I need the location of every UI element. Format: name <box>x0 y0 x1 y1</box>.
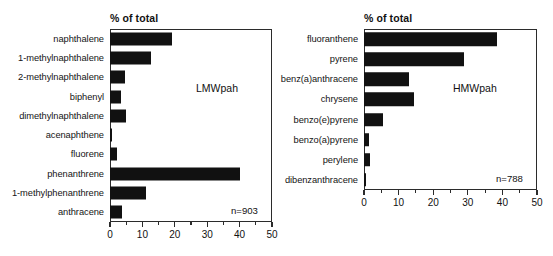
x-tick-label: 20 <box>428 197 439 208</box>
bar <box>110 51 151 64</box>
x-tick-minor <box>485 190 486 193</box>
category-label: phenanthrene <box>47 169 104 179</box>
x-tick-minor <box>126 222 127 225</box>
bar <box>110 187 146 200</box>
bar <box>110 167 240 180</box>
bar <box>364 32 497 46</box>
bar <box>110 32 172 45</box>
x-tick-label: 10 <box>393 197 404 208</box>
x-tick-label: 50 <box>266 229 277 240</box>
panel-hmwpah: % of total fluoranthenepyrenebenz(a)anth… <box>277 0 553 256</box>
bar <box>364 52 464 66</box>
x-tick-minor <box>415 190 416 193</box>
category-label: biphenyl <box>70 92 104 102</box>
x-tick-label: 30 <box>202 229 213 240</box>
x-tick-major <box>109 222 110 227</box>
x-tick-label: 10 <box>137 229 148 240</box>
x-tick-label: 30 <box>462 197 473 208</box>
category-label: benzo(a)pyrene <box>294 135 358 145</box>
bar <box>110 148 117 161</box>
x-tick-label: 40 <box>234 229 245 240</box>
x-tick-major <box>142 222 143 227</box>
bars-layer <box>110 29 272 222</box>
x-tick-major <box>363 190 364 195</box>
bar <box>364 133 369 147</box>
x-tick-label: 0 <box>361 197 367 208</box>
category-label: naphthalene <box>53 34 104 44</box>
pah-composition-figure: % of total naphthalene1-methylnaphthalen… <box>0 0 553 256</box>
x-tick-minor <box>381 190 382 193</box>
x-tick-major <box>536 190 537 195</box>
category-label: benzo(e)pyrene <box>294 115 358 125</box>
category-label: anthracene <box>58 207 104 217</box>
bar <box>110 129 112 142</box>
category-label: chrysene <box>321 94 358 104</box>
panel-lmwpah: % of total naphthalene1-methylnaphthalen… <box>0 0 277 256</box>
bar <box>364 113 383 127</box>
category-label: pyrene <box>330 54 358 64</box>
bar <box>110 206 122 219</box>
series-label-lmwpah: LMWpah <box>196 82 238 94</box>
category-label: fluorene <box>71 149 104 159</box>
bar <box>364 93 414 107</box>
x-tick-major <box>467 190 468 195</box>
bar <box>110 90 121 103</box>
category-label: benz(a)anthracene <box>281 74 358 84</box>
x-tick-major <box>207 222 208 227</box>
x-tick-minor <box>158 222 159 225</box>
axis-title-percent-of-total: % of total <box>364 12 412 24</box>
category-label: 2-methylnaphthalene <box>18 72 104 82</box>
bar <box>110 71 125 84</box>
bar <box>364 173 366 187</box>
x-tick-label: 50 <box>531 197 542 208</box>
x-tick-label: 20 <box>169 229 180 240</box>
axis-title-percent-of-total: % of total <box>110 12 158 24</box>
series-label-hmwpah: HMWpah <box>453 82 497 94</box>
x-tick-minor <box>450 190 451 193</box>
bar <box>364 153 370 167</box>
category-label: fluoranthene <box>307 34 358 44</box>
x-tick-major <box>271 222 272 227</box>
x-tick-minor <box>190 222 191 225</box>
category-label: 1-methylnaphthalene <box>18 53 104 63</box>
category-label: 1-methylphenanthrene <box>12 188 104 198</box>
sample-size-note: n=903 <box>231 205 258 216</box>
x-tick-minor <box>223 222 224 225</box>
bar <box>364 73 409 87</box>
x-tick-minor <box>519 190 520 193</box>
category-label: dibenzanthracene <box>285 175 358 185</box>
x-tick-minor <box>255 222 256 225</box>
bar <box>110 109 126 122</box>
x-tick-label: 40 <box>497 197 508 208</box>
category-label: acenaphthene <box>46 130 104 140</box>
category-label: dimethylnaphthalene <box>19 111 104 121</box>
x-tick-major <box>174 222 175 227</box>
bars-layer <box>364 29 537 190</box>
x-tick-label: 0 <box>107 229 113 240</box>
sample-size-note: n=788 <box>496 173 523 184</box>
category-label-column: fluoranthenepyrenebenz(a)anthracenechrys… <box>277 29 358 190</box>
category-label: perylene <box>323 155 358 165</box>
x-tick-major <box>239 222 240 227</box>
x-tick-major <box>433 190 434 195</box>
category-label-column: naphthalene1-methylnaphthalene2-methylna… <box>0 29 104 222</box>
x-tick-major <box>502 190 503 195</box>
x-tick-major <box>398 190 399 195</box>
